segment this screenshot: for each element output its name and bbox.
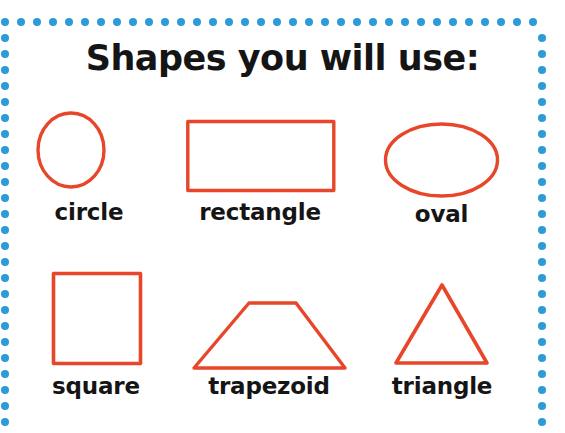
border-dot-left bbox=[1, 338, 9, 346]
border-dot-top bbox=[433, 18, 441, 26]
border-dot-top bbox=[321, 18, 329, 26]
border-dot-left bbox=[1, 162, 9, 170]
shape-cell-circle: circle bbox=[18, 105, 160, 225]
border-dot-left bbox=[1, 386, 9, 394]
border-dot-top bbox=[33, 18, 41, 26]
border-dot-right bbox=[538, 402, 546, 410]
border-dot-top bbox=[81, 18, 89, 26]
border-dot-left bbox=[1, 354, 9, 362]
rectangle-shape-icon bbox=[186, 105, 338, 195]
rectangle-shape-area bbox=[186, 105, 334, 195]
triangle-shape-area bbox=[372, 268, 512, 368]
border-dot-top bbox=[257, 18, 265, 26]
border-dot-left bbox=[1, 146, 9, 154]
shapes-poster: Shapes you will use: circle rectangle ov… bbox=[0, 0, 565, 433]
border-dot-left bbox=[1, 370, 9, 378]
shape-label-square: square bbox=[20, 373, 172, 399]
border-dot-left bbox=[1, 210, 9, 218]
border-dot-right bbox=[538, 194, 546, 202]
border-dot-right bbox=[538, 162, 546, 170]
border-dot-top bbox=[417, 18, 425, 26]
border-dot-top bbox=[401, 18, 409, 26]
border-dot-right bbox=[538, 322, 546, 330]
border-dot-left bbox=[1, 322, 9, 330]
border-dot-top bbox=[225, 18, 233, 26]
border-dot-left bbox=[1, 98, 9, 106]
circle-shape-area bbox=[18, 105, 160, 195]
border-dot-top bbox=[193, 18, 201, 26]
border-dot-right bbox=[538, 338, 546, 346]
border-dot-left bbox=[1, 130, 9, 138]
shape-cell-trapezoid: trapezoid bbox=[186, 268, 352, 398]
border-dot-top bbox=[385, 18, 393, 26]
border-dot-top bbox=[177, 18, 185, 26]
border-dot-top bbox=[465, 18, 473, 26]
border-dot-left bbox=[1, 402, 9, 410]
shape-label-trapezoid: trapezoid bbox=[186, 373, 352, 399]
border-dot-top bbox=[129, 18, 137, 26]
shape-cell-oval: oval bbox=[373, 105, 510, 225]
shape-label-circle: circle bbox=[18, 199, 160, 225]
border-dot-left bbox=[1, 274, 9, 282]
shape-cell-triangle: triangle bbox=[372, 268, 512, 398]
border-dot-top bbox=[209, 18, 217, 26]
triangle-shape-icon bbox=[372, 268, 512, 368]
border-dot-top bbox=[49, 18, 57, 26]
border-dot-top bbox=[65, 18, 73, 26]
circle-shape-icon bbox=[18, 105, 160, 195]
border-dot-top bbox=[161, 18, 169, 26]
border-dot-left bbox=[1, 114, 9, 122]
border-dot-left bbox=[1, 82, 9, 90]
border-dot-right bbox=[538, 290, 546, 298]
border-dot-top bbox=[113, 18, 121, 26]
border-dot-right bbox=[538, 226, 546, 234]
border-dot-left bbox=[1, 290, 9, 298]
border-dot-top bbox=[145, 18, 153, 26]
border-dot-top bbox=[481, 18, 489, 26]
oval-shape-area bbox=[373, 105, 510, 205]
page-title: Shapes you will use: bbox=[0, 38, 565, 78]
border-dot-top bbox=[305, 18, 313, 26]
square-shape-area bbox=[20, 268, 172, 368]
border-dot-top bbox=[449, 18, 457, 26]
shape-cell-rectangle: rectangle bbox=[186, 105, 334, 225]
border-dot-top bbox=[369, 18, 377, 26]
oval-shape-icon bbox=[373, 105, 510, 205]
border-dot-left bbox=[1, 418, 9, 426]
border-dot-top bbox=[17, 18, 25, 26]
border-dot-left bbox=[1, 178, 9, 186]
border-dot-left bbox=[1, 242, 9, 250]
border-dot-top bbox=[513, 18, 521, 26]
border-dot-right bbox=[538, 178, 546, 186]
border-dot-top bbox=[97, 18, 105, 26]
border-dot-right bbox=[538, 306, 546, 314]
border-dot-right bbox=[538, 354, 546, 362]
border-dot-top bbox=[529, 18, 537, 26]
border-dot-right bbox=[538, 130, 546, 138]
border-dot-left bbox=[1, 226, 9, 234]
border-dot-top bbox=[241, 18, 249, 26]
square-shape-icon bbox=[20, 268, 172, 368]
shape-cell-square: square bbox=[20, 268, 172, 398]
border-dot-top bbox=[337, 18, 345, 26]
border-dot-top bbox=[1, 18, 9, 26]
shape-label-oval: oval bbox=[373, 201, 510, 227]
border-dot-left bbox=[1, 306, 9, 314]
border-dot-right bbox=[538, 258, 546, 266]
border-dot-top bbox=[497, 18, 505, 26]
shape-label-triangle: triangle bbox=[372, 373, 512, 399]
border-dot-right bbox=[538, 242, 546, 250]
border-dot-top bbox=[273, 18, 281, 26]
border-dot-top bbox=[353, 18, 361, 26]
border-dot-right bbox=[538, 370, 546, 378]
trapezoid-shape-area bbox=[186, 268, 352, 372]
shape-label-rectangle: rectangle bbox=[186, 199, 334, 225]
border-dot-left bbox=[1, 194, 9, 202]
border-dot-left bbox=[1, 258, 9, 266]
border-dot-right bbox=[538, 98, 546, 106]
border-dot-right bbox=[538, 210, 546, 218]
border-dot-right bbox=[538, 114, 546, 122]
border-dot-right bbox=[538, 418, 546, 426]
trapezoid-shape-icon bbox=[186, 268, 352, 372]
border-dot-top bbox=[289, 18, 297, 26]
